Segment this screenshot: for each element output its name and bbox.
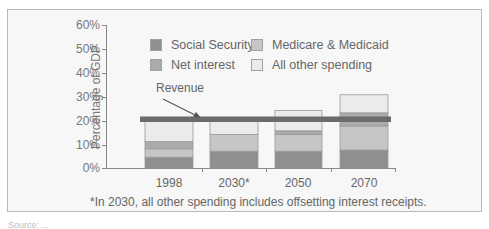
bar-2070-medicare bbox=[340, 126, 388, 150]
legend-label: Net interest bbox=[171, 58, 235, 72]
bar-1998-social-security bbox=[145, 157, 193, 168]
bar-1998 bbox=[145, 120, 193, 168]
xtick-2070: 2070 bbox=[334, 176, 394, 190]
bar-1998-all-other bbox=[145, 120, 193, 142]
bar-2030-medicare bbox=[210, 134, 258, 151]
legend-swatch-medicare-medicaid bbox=[251, 39, 263, 51]
bar-1998-medicare bbox=[145, 149, 193, 157]
legend-swatch-net-interest bbox=[150, 59, 162, 71]
x-axis bbox=[107, 169, 397, 173]
legend-swatch-social-security bbox=[150, 39, 162, 51]
legend-label: All other spending bbox=[272, 58, 372, 72]
bar-2050-net-interest bbox=[275, 131, 322, 135]
source-note: Source: ... bbox=[8, 220, 49, 229]
legend-item-net-interest: Net interest bbox=[150, 58, 235, 72]
bar-2070-all-other bbox=[340, 95, 388, 113]
bar-2050-medicare bbox=[275, 134, 322, 151]
legend-item-all-other: All other spending bbox=[251, 58, 372, 72]
legend-swatch-all-other bbox=[251, 59, 263, 71]
bar-2030-all-other bbox=[210, 120, 258, 134]
footnote: *In 2030, all other spending includes of… bbox=[90, 195, 427, 209]
bar-1998-net-interest bbox=[145, 142, 193, 149]
xtick-2030: 2030* bbox=[204, 176, 264, 190]
bar-2030-social-security bbox=[210, 151, 258, 168]
xtick-2050: 2050 bbox=[268, 176, 328, 190]
revenue-annotation: Revenue bbox=[156, 81, 204, 95]
bar-2070-social-security bbox=[340, 150, 388, 168]
y-axis bbox=[102, 25, 107, 169]
legend-label: Social Security bbox=[171, 38, 254, 52]
bar-2050-social-security bbox=[275, 151, 322, 168]
legend-item-social-security: Social Security bbox=[150, 38, 254, 52]
bar-2070 bbox=[340, 95, 388, 168]
legend-item-medicare-medicaid: Medicare & Medicaid bbox=[251, 38, 389, 52]
xtick-1998: 1998 bbox=[139, 176, 199, 190]
bar-2030 bbox=[210, 120, 258, 168]
revenue-line bbox=[140, 117, 391, 123]
legend-label: Medicare & Medicaid bbox=[272, 38, 389, 52]
revenue-arrow bbox=[163, 99, 201, 118]
